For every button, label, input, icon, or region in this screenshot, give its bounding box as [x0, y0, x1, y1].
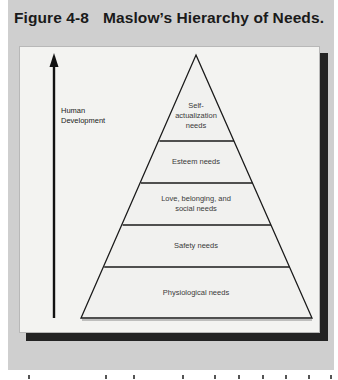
axis-label-line2: Development [61, 116, 105, 126]
tier-safety: Safety needs [136, 241, 256, 251]
tier-esteem: Esteem needs [146, 157, 246, 167]
human-development-label: Human Development [61, 106, 105, 126]
tier-physiological: Physiological needs [126, 288, 266, 298]
tier-love-belonging: Love, belonging, and social needs [136, 194, 256, 214]
pyramid-diagram [0, 0, 338, 380]
up-arrow-icon [50, 53, 59, 318]
tier-label: Self- [156, 101, 236, 111]
tier-label: needs [156, 121, 236, 131]
tier-label: Physiological needs [126, 288, 266, 298]
cut-off-text-line [0, 375, 338, 380]
tier-label: actualization [156, 111, 236, 121]
tier-label: Love, belonging, and [136, 194, 256, 204]
tier-label: social needs [136, 204, 256, 214]
tier-label: Esteem needs [146, 157, 246, 167]
tier-self-actualization: Self- actualization needs [156, 101, 236, 131]
tier-label: Safety needs [136, 241, 256, 251]
pyramid-shape [81, 55, 312, 318]
axis-label-line1: Human [61, 106, 105, 116]
